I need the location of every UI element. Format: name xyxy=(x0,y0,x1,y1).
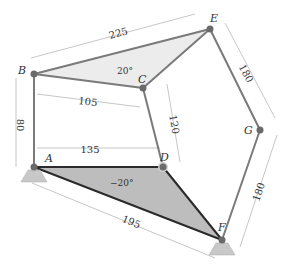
dim-be: 225 xyxy=(108,25,129,41)
label-e: E xyxy=(209,12,218,25)
dim-af: 195 xyxy=(120,213,142,230)
dim-cd: 120 xyxy=(167,114,181,135)
angle-top: 20° xyxy=(117,66,133,76)
label-b: B xyxy=(17,64,26,77)
dim-ad: 135 xyxy=(80,144,99,155)
dim-gf: 180 xyxy=(250,181,267,203)
dim-eg: 180 xyxy=(237,62,256,84)
label-a: A xyxy=(44,152,53,165)
label-c: C xyxy=(138,73,147,86)
angle-bottom: −20° xyxy=(110,178,134,188)
ground-support-a-icon xyxy=(21,170,47,182)
dim-bc: 105 xyxy=(78,95,98,108)
label-f: F xyxy=(217,221,226,234)
label-d: D xyxy=(159,151,169,164)
label-g: G xyxy=(244,124,253,137)
dim-ab: 80 xyxy=(15,119,26,132)
ground-support-f-icon xyxy=(209,243,235,255)
linkage-diagram: A B C D E F G 225 80 105 135 120 180 180… xyxy=(0,0,291,271)
